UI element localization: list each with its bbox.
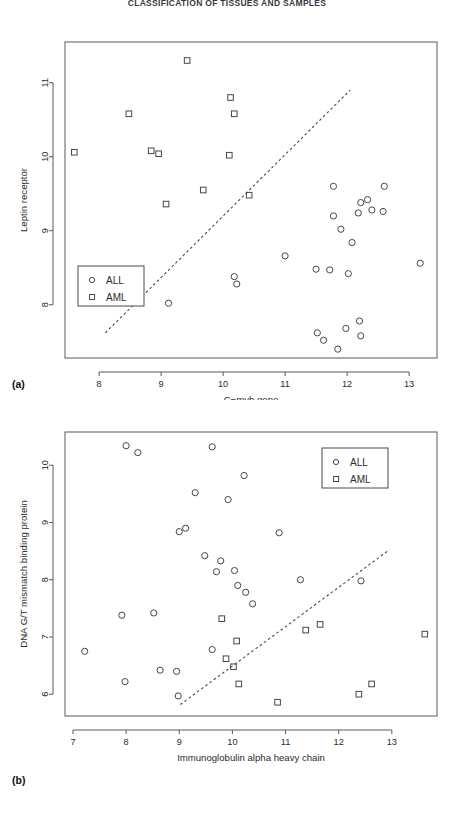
data-point-aml [200, 187, 206, 193]
x-axis-title: Immunoglobulin alpha heavy chain [177, 752, 325, 763]
data-point-aml [275, 699, 281, 705]
y-tick-label: 9 [40, 520, 50, 525]
data-point-all [174, 668, 180, 674]
data-point-all [213, 569, 219, 575]
x-tick-label: 12 [342, 379, 352, 389]
plot-b-svg: 78910111213678910Immunoglobulin alpha he… [0, 400, 454, 800]
data-point-aml [303, 627, 309, 633]
legend-label: ALL [350, 457, 368, 468]
data-point-all [165, 300, 171, 306]
y-tick-label: 11 [40, 78, 50, 88]
data-point-all [314, 330, 320, 336]
running-head: CLASSIFICATION OF TISSUES AND SAMPLES [0, 0, 454, 9]
data-point-aml [369, 681, 375, 687]
data-point-aml [184, 58, 190, 64]
data-point-aml [234, 638, 240, 644]
x-tick-label: 7 [70, 737, 75, 747]
data-point-all [364, 197, 370, 203]
y-tick-label: 6 [40, 692, 50, 697]
data-point-all [349, 239, 355, 245]
data-point-all [417, 260, 423, 266]
data-point-all [249, 601, 255, 607]
trend-line [180, 550, 389, 705]
data-point-all [135, 450, 141, 456]
data-point-all [192, 490, 198, 496]
data-point-aml [227, 152, 233, 158]
data-point-aml [163, 201, 169, 207]
data-point-aml [356, 691, 362, 697]
data-point-aml [317, 622, 323, 628]
data-point-all [235, 582, 241, 588]
scatter-panel-b: 78910111213678910Immunoglobulin alpha he… [0, 400, 454, 800]
x-tick-label: 10 [218, 379, 228, 389]
data-point-all [338, 226, 344, 232]
data-point-all [209, 444, 215, 450]
x-tick-label: 13 [387, 737, 397, 747]
legend-label: AML [350, 474, 371, 485]
data-point-all [355, 210, 361, 216]
data-point-all [276, 530, 282, 536]
x-tick-label: 12 [334, 737, 344, 747]
plot-a-canvas: 8910111213891011C−myb geneLeptin recepto… [0, 28, 454, 400]
data-point-all [183, 525, 189, 531]
data-point-aml [126, 111, 132, 117]
data-point-all [356, 318, 362, 324]
data-point-all [231, 273, 237, 279]
data-point-all [343, 325, 349, 331]
data-point-aml [219, 616, 225, 622]
plot-a-svg: 8910111213891011C−myb geneLeptin recepto… [0, 28, 454, 400]
data-point-all [313, 266, 319, 272]
data-point-all [297, 577, 303, 583]
data-point-all [335, 346, 341, 352]
plot-b-canvas: 78910111213678910Immunoglobulin alpha he… [0, 400, 454, 800]
data-point-aml [231, 111, 237, 117]
data-point-all [381, 183, 387, 189]
y-tick-label: 10 [40, 152, 50, 162]
data-point-all [327, 267, 333, 273]
data-point-all [175, 693, 181, 699]
data-point-all [119, 612, 125, 618]
y-tick-label: 8 [40, 577, 50, 582]
x-tick-label: 10 [227, 737, 237, 747]
panel-label-b: (b) [12, 774, 25, 786]
data-point-all [369, 207, 375, 213]
data-point-all [358, 578, 364, 584]
data-point-all [209, 646, 215, 652]
data-point-all [380, 208, 386, 214]
data-point-all [243, 589, 249, 595]
x-tick-label: 11 [280, 379, 290, 389]
data-point-all [157, 667, 163, 673]
x-tick-label: 8 [124, 737, 129, 747]
data-point-all [123, 443, 129, 449]
x-tick-label: 13 [404, 379, 414, 389]
data-point-all [345, 271, 351, 277]
legend-label: ALL [106, 275, 124, 286]
data-point-all [234, 281, 240, 287]
data-point-aml [148, 148, 154, 154]
data-point-all [176, 529, 182, 535]
data-point-all [122, 679, 128, 685]
y-tick-label: 8 [40, 302, 50, 307]
scatter-panel-a: 8910111213891011C−myb geneLeptin recepto… [0, 28, 454, 400]
data-point-aml [246, 192, 252, 198]
data-point-all [330, 213, 336, 219]
data-point-aml [156, 151, 162, 157]
y-tick-label: 10 [40, 460, 50, 470]
y-axis-title: DNA G/T mismatch binding protein [18, 500, 29, 648]
legend-label: AML [106, 292, 127, 303]
y-tick-label: 7 [40, 634, 50, 639]
plot-frame [65, 42, 437, 358]
data-point-aml [223, 656, 229, 662]
x-tick-label: 11 [281, 737, 291, 747]
y-axis-title: Leptin receptor [18, 167, 29, 232]
data-point-all [282, 253, 288, 259]
data-point-aml [422, 631, 428, 637]
figure-page: CLASSIFICATION OF TISSUES AND SAMPLES 89… [0, 0, 454, 814]
x-tick-label: 9 [177, 737, 182, 747]
data-point-all [82, 648, 88, 654]
x-tick-label: 9 [159, 379, 164, 389]
data-point-aml [72, 149, 78, 155]
data-point-all [358, 333, 364, 339]
x-tick-label: 8 [97, 379, 102, 389]
data-point-aml [236, 681, 242, 687]
